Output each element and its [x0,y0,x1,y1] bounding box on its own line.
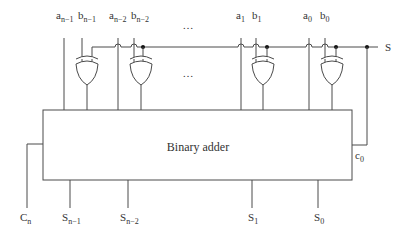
svg-text:b0: b0 [320,9,330,24]
svg-text:an−2: an−2 [109,9,126,24]
sum-outputs: Sn−1 Sn−2 S1 S0 [62,180,324,226]
xor-gate [252,56,274,85]
svg-text:an−1: an−1 [56,9,73,24]
stage-0: a0 b0 [303,9,343,110]
xor-gate [130,56,152,85]
binary-adder-label: Binary adder [167,140,229,154]
ellipsis-middle: … [183,67,194,79]
s-control-bus [92,44,378,145]
svg-text:bn−2: bn−2 [131,9,149,24]
stage-1: a1 b1 [236,9,274,110]
carry-out-wire [27,144,43,208]
stage-n-minus-2: an−2 bn−2 [109,9,152,110]
carry-in-label: c0 [355,149,364,164]
svg-text:a0: a0 [303,9,312,24]
svg-text:b1: b1 [252,9,262,24]
ellipsis-top: … [183,19,194,31]
sum-output-label: Sn−2 [120,211,139,226]
adder-subtractor-diagram: Binary adder S an−1 bn−1 [0,0,414,231]
svg-text:a1: a1 [236,9,245,24]
s-bus-label: S [385,41,391,53]
xor-gate [321,56,343,85]
sum-output-label: S0 [314,211,324,226]
carry-out-label: Cn [20,211,31,226]
sum-output-label: S1 [248,211,258,226]
xor-gate [76,56,98,85]
sum-output-label: Sn−1 [62,211,81,226]
svg-text:bn−1: bn−1 [78,9,96,24]
